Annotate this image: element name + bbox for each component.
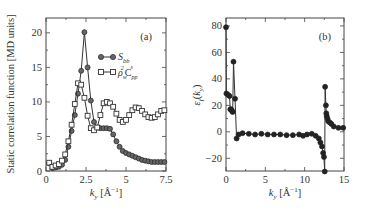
filled-circle-marker-icon [278,132,283,137]
filled-circle-marker-icon [265,132,270,137]
filled-circle-marker-icon [92,119,97,124]
y-tick-label: 5 [37,131,42,142]
filled-circle-marker-icon [230,109,235,114]
panel-b-x-axis-label: ky [Å−1] [269,186,301,201]
panel-a-label: (a) [140,31,152,43]
x-tick-label: 5 [263,174,268,185]
filled-circle-marker-icon [231,59,236,64]
filled-circle-marker-icon [162,160,167,165]
filled-circle-marker-icon [305,132,310,137]
filled-circle-marker-icon [336,125,341,130]
panel-a-y-axis-label: Static correlation function [MD units] [5,14,16,173]
filled-circle-marker-icon [321,154,326,159]
filled-circle-marker-icon [79,68,84,73]
filled-circle-marker-icon [98,54,103,59]
filled-circle-marker-icon [319,144,324,149]
filled-circle-marker-icon [271,132,276,137]
open-square-marker-icon [85,113,90,118]
filled-circle-marker-icon [227,94,232,99]
filled-circle-marker-icon [246,131,251,136]
open-square-marker-icon [72,102,77,107]
panel-b-y-axis-label: εf(ky) [191,84,205,105]
panel-b-label: (b) [319,31,332,43]
open-square-marker-icon [127,113,132,118]
legend-label-sbb-sub: bb [123,57,130,64]
x-tick-label: 2.5 [79,174,92,185]
open-square-marker-icon [79,82,84,87]
y-tick-label: 60 [212,47,223,58]
filled-circle-marker-icon [331,124,336,129]
filled-circle-marker-icon [253,132,258,137]
legend-label-rho-sup: 2 [121,65,124,71]
open-square-marker-icon [111,70,116,75]
x-tick-label: 10 [299,174,310,185]
series-line [226,27,343,171]
y-tick-label: −20 [206,153,222,164]
figure: 02.557.505101520 (a) Sbb ρw2Cpps S [0,0,365,211]
open-square-marker-icon [69,122,74,127]
panel-b-series [224,25,346,174]
filled-circle-marker-icon [259,131,264,136]
y-tick-label: 40 [212,73,223,84]
open-square-marker-icon [124,117,129,122]
filled-circle-marker-icon [341,125,346,130]
filled-circle-marker-icon [110,54,115,59]
y-tick-label: 20 [212,100,223,111]
open-square-marker-icon [95,125,100,130]
filled-circle-marker-icon [284,133,289,138]
filled-circle-marker-icon [323,103,328,108]
y-tick-label: 0 [217,126,222,137]
open-square-marker-icon [114,111,119,116]
open-square-marker-icon [66,139,71,144]
panel-b-chart: 051015−20020406080 (b) εf(ky) ky [Å−1] [191,18,349,201]
panel-a-series [47,30,167,171]
open-square-marker-icon [111,104,116,109]
filled-circle-marker-icon [88,98,93,103]
open-square-marker-icon [99,70,104,75]
filled-circle-marker-icon [108,126,113,131]
legend-entry-cpp: ρw2Cpps [99,64,138,80]
filled-circle-marker-icon [323,84,328,89]
panel-a-chart: 02.557.505101520 (a) Sbb ρw2Cpps S [5,14,173,201]
x-tick-label: 0 [43,174,48,185]
filled-circle-marker-icon [111,132,116,137]
legend-label-c-sup: s [131,64,134,70]
filled-circle-marker-icon [240,131,245,136]
y-tick-label: 15 [32,62,43,73]
filled-circle-marker-icon [114,139,119,144]
svg-text:ρw2Cpps: ρw2Cpps [117,64,138,80]
x-tick-label: 7.5 [159,174,172,185]
panel-a-x-axis-label: ky [Å−1] [90,186,122,201]
filled-circle-marker-icon [322,169,327,174]
open-square-marker-icon [60,158,65,163]
x-tick-label: 15 [339,174,350,185]
svg-text:Sbb: Sbb [118,51,130,64]
legend-entry-sbb: Sbb [98,51,130,64]
filled-circle-marker-icon [290,133,295,138]
filled-circle-marker-icon [233,96,238,101]
open-square-marker-icon [63,152,68,157]
panel-b-ticks: 051015−20020406080 [206,18,350,185]
y-tick-label: 10 [32,96,43,107]
y-tick-label: 20 [32,27,43,38]
filled-circle-marker-icon [224,25,229,30]
open-square-marker-icon [162,108,167,113]
panel-a-legend: Sbb ρw2Cpps [98,51,137,80]
y-tick-label: 80 [212,20,223,31]
filled-circle-marker-icon [82,30,87,35]
y-tick-label: 0 [37,166,42,177]
x-tick-label: 5 [123,174,128,185]
legend-label-c-sub: pp [131,74,138,80]
open-square-marker-icon [98,113,103,118]
x-tick-label: 0 [223,174,228,185]
open-square-marker-icon [82,95,87,100]
filled-circle-marker-icon [85,65,90,70]
